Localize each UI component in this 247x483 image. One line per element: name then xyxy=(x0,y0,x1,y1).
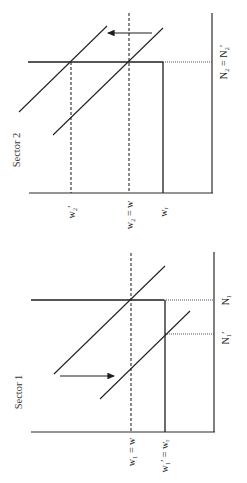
sector1-wage-eq-label: w₁ = w xyxy=(126,437,137,466)
sector1-demand-curve-original xyxy=(54,266,165,374)
sector1-employment-new-label: N₁′ xyxy=(220,332,231,345)
sector-1-panel: Sector 1 w₁ = w w₁′ = wᵣ N₁ N₁′ xyxy=(13,252,231,473)
sector1-title: Sector 1 xyxy=(13,375,24,410)
sector-diagram: Sector 2 w₂′ w₂ = w wᵣ N₂ = N₂′ Sector 1… xyxy=(0,0,247,483)
sector2-demand-curve-new xyxy=(19,26,107,112)
sector2-wage-new-label: w₂′ xyxy=(66,206,77,219)
sector-2-panel: Sector 2 w₂′ w₂ = w wᵣ N₂ = N₂′ xyxy=(11,13,229,229)
sector2-wage-eq-label: w₂ = w xyxy=(124,200,135,229)
sector1-employment-label: N₁ xyxy=(220,295,231,306)
sector1-demand-curve-new xyxy=(100,311,190,399)
sector2-title: Sector 2 xyxy=(11,133,22,168)
sector2-demand-curve-original xyxy=(53,28,163,135)
sector2-employment-label: N₂ = N₂′ xyxy=(218,45,229,79)
sector2-reservation-wage-label: wᵣ xyxy=(158,207,169,217)
sector1-wage-new-label: w₁′ = wᵣ xyxy=(159,439,170,473)
